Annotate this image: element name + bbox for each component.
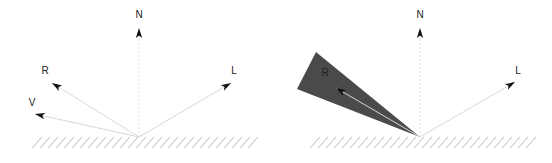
- hatch-line: [200, 137, 210, 148]
- hatch-line: [422, 137, 432, 148]
- hatch-line: [136, 137, 146, 148]
- hatch-line: [438, 137, 448, 148]
- reflection-diagram: NRVL NRL: [0, 0, 552, 163]
- hatch-line: [208, 137, 218, 148]
- hatch-line: [318, 137, 328, 148]
- vector-label-v: V: [29, 97, 36, 108]
- hatch-line: [72, 137, 82, 148]
- hatch-line: [390, 137, 400, 148]
- hatch-line: [366, 137, 376, 148]
- hatch-line: [510, 137, 520, 148]
- hatch-line: [56, 137, 66, 148]
- hatch-line: [40, 137, 50, 148]
- hatch-line: [96, 137, 106, 148]
- arrowhead-icon: [505, 82, 515, 90]
- vector-n: N: [135, 9, 142, 137]
- hatch-line: [350, 137, 360, 148]
- hatch-line: [168, 137, 178, 148]
- hatch-line: [240, 137, 250, 148]
- vector-line: [52, 83, 139, 137]
- vector-label-r: R: [41, 65, 48, 76]
- hatch-line: [334, 137, 344, 148]
- hatch-line: [104, 137, 114, 148]
- hatch-line: [462, 137, 472, 148]
- reflection-lobe: [297, 52, 420, 137]
- hatch-line: [502, 137, 512, 148]
- hatch-line: [112, 137, 122, 148]
- vector-label-l: L: [515, 65, 521, 76]
- vector-label-n: N: [416, 9, 423, 20]
- hatch-line: [64, 137, 74, 148]
- hatch-line: [358, 137, 368, 148]
- vector-line: [420, 82, 515, 137]
- hatch-line: [454, 137, 464, 148]
- left-panel-phong-vectors: NRVL: [29, 9, 258, 148]
- hatch-line: [342, 137, 352, 148]
- hatch-line: [88, 137, 98, 148]
- hatch-line: [32, 137, 42, 148]
- ground-surface: [310, 137, 536, 148]
- hatch-line: [326, 137, 336, 148]
- hatch-line: [248, 137, 258, 148]
- hatch-line: [430, 137, 440, 148]
- hatch-line: [486, 137, 496, 148]
- hatch-line: [152, 137, 162, 148]
- hatch-line: [470, 137, 480, 148]
- vector-line: [139, 83, 231, 137]
- hatch-line: [478, 137, 488, 148]
- hatch-line: [398, 137, 408, 148]
- hatch-line: [120, 137, 130, 148]
- hatch-line: [494, 137, 504, 148]
- hatch-line: [144, 137, 154, 148]
- vector-n: N: [416, 9, 423, 137]
- right-panel-glossy-lobe: NRL: [297, 9, 536, 148]
- vector-line: [35, 114, 139, 137]
- hatch-line: [80, 137, 90, 148]
- arrowhead-icon: [52, 83, 62, 91]
- hatch-line: [216, 137, 226, 148]
- vector-label-n: N: [135, 9, 142, 20]
- hatch-line: [526, 137, 536, 148]
- hatch-line: [374, 137, 384, 148]
- hatch-line: [406, 137, 416, 148]
- hatch-line: [176, 137, 186, 148]
- vector-l: L: [139, 65, 237, 137]
- hatch-line: [224, 137, 234, 148]
- ground-surface: [32, 137, 258, 148]
- hatch-line: [232, 137, 242, 148]
- hatch-line: [382, 137, 392, 148]
- hatch-line: [414, 137, 424, 148]
- hatch-line: [184, 137, 194, 148]
- arrowhead-icon: [221, 83, 231, 91]
- vector-label-l: L: [231, 65, 237, 76]
- vector-l: L: [420, 65, 521, 137]
- hatch-line: [128, 137, 138, 148]
- hatch-line: [48, 137, 58, 148]
- hatch-line: [310, 137, 320, 148]
- vector-label-r: R: [321, 67, 328, 78]
- hatch-line: [160, 137, 170, 148]
- hatch-line: [518, 137, 528, 148]
- hatch-line: [192, 137, 202, 148]
- hatch-line: [446, 137, 456, 148]
- vector-line: [336, 88, 420, 137]
